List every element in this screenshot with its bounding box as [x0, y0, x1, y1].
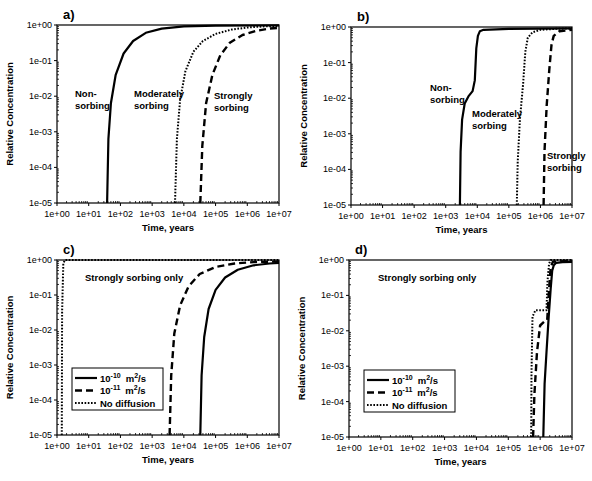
y-tick-label: 1e-05	[323, 200, 346, 210]
y-tick-label: 1e-04	[323, 164, 346, 174]
annotation-text: sorbing	[214, 102, 249, 113]
panel-label: b)	[357, 9, 369, 24]
annotation-text: sorbing	[430, 94, 465, 105]
chart-panel-a: 1e+001e+011e+021e+031e+041e+051e+061e+07…	[4, 7, 292, 233]
x-tick-label: 1e+00	[338, 211, 363, 221]
annotation-text: Non-	[75, 88, 97, 99]
x-tick-label: 1e+06	[528, 443, 553, 453]
y-tick-label: 1e-01	[29, 290, 52, 300]
x-axis-label: Time, years	[142, 454, 194, 465]
annotation-text: sorbing	[472, 120, 507, 131]
annotation-text: sorbing	[547, 162, 582, 173]
y-tick-label: 1e+00	[319, 255, 344, 265]
x-tick-label: 1e+01	[76, 441, 101, 451]
x-tick-label: 1e+06	[528, 211, 553, 221]
y-tick-label: 1e-01	[323, 58, 346, 68]
x-tick-label: 1e+04	[465, 211, 490, 221]
x-tick-label: 1e+03	[433, 211, 458, 221]
y-tick-label: 1e+00	[27, 20, 52, 30]
x-tick-label: 1e+07	[559, 211, 584, 221]
annotation-text: Strongly sorbing only	[378, 272, 477, 283]
x-tick-label: 1e+05	[496, 211, 521, 221]
annotation-text: sorbing	[75, 100, 110, 111]
x-tick-label: 1e+07	[559, 443, 584, 453]
y-tick-label: 1e-02	[29, 91, 52, 101]
y-tick-label: 1e-04	[29, 395, 52, 405]
x-tick-label: 1e+01	[368, 443, 393, 453]
y-tick-label: 1e-03	[29, 360, 52, 370]
x-tick-label: 1e+04	[171, 209, 196, 219]
y-tick-label: 1e+00	[321, 22, 346, 32]
figure: 1e+001e+011e+021e+031e+041e+051e+061e+07…	[0, 0, 592, 481]
x-tick-label: 1e+03	[140, 209, 165, 219]
annotation-text: Strongly sorbing only	[85, 272, 184, 283]
chart-panel-b: 1e+001e+011e+021e+031e+041e+051e+061e+07…	[298, 9, 586, 235]
x-tick-label: 1e+04	[464, 443, 489, 453]
y-tick-label: 1e-01	[29, 56, 52, 66]
y-tick-label: 1e-05	[29, 198, 52, 208]
x-tick-label: 1e+01	[370, 211, 395, 221]
y-axis-label: Relative Concentration	[296, 297, 307, 401]
legend: 10-10m2/s10-11m2/sNo diffusion	[72, 368, 163, 410]
y-tick-label: 1e-05	[321, 432, 344, 442]
annotation-text: Moderately	[472, 108, 523, 119]
annotation-text: Moderately	[134, 88, 185, 99]
x-tick-label: 1e+03	[140, 441, 165, 451]
x-tick-label: 1e+00	[336, 443, 361, 453]
y-tick-label: 1e-02	[323, 93, 346, 103]
x-tick-label: 1e+04	[171, 441, 196, 451]
x-tick-label: 1e+02	[402, 211, 427, 221]
plot-area	[351, 27, 572, 205]
y-tick-label: 1e-03	[323, 129, 346, 139]
x-tick-label: 1e+07	[266, 209, 291, 219]
y-tick-label: 1e-03	[321, 361, 344, 371]
x-axis-label: Time, years	[434, 456, 486, 467]
y-tick-label: 1e-02	[321, 326, 344, 336]
annotation-text: Strongly	[214, 90, 253, 101]
y-tick-label: 1e+00	[27, 255, 52, 265]
y-tick-label: 1e-01	[321, 290, 344, 300]
x-tick-label: 1e+05	[496, 443, 521, 453]
x-tick-label: 1e+05	[203, 441, 228, 451]
x-tick-label: 1e+02	[108, 441, 133, 451]
x-tick-label: 1e+02	[400, 443, 425, 453]
chart-panel-c: 1e+001e+011e+021e+031e+041e+051e+061e+07…	[4, 242, 292, 465]
y-tick-label: 1e-05	[29, 430, 52, 440]
x-tick-label: 1e+05	[203, 209, 228, 219]
x-tick-label: 1e+07	[266, 441, 291, 451]
annotation-text: sorbing	[134, 100, 169, 111]
x-tick-label: 1e+03	[432, 443, 457, 453]
y-tick-label: 1e-04	[29, 162, 52, 172]
x-tick-label: 1e+00	[44, 209, 69, 219]
y-tick-label: 1e-02	[29, 325, 52, 335]
y-axis-label: Relative Concentration	[4, 62, 15, 166]
annotation-text: Strongly	[547, 150, 586, 161]
panel-label: d)	[355, 242, 367, 257]
x-tick-label: 1e+01	[76, 209, 101, 219]
annotation-text: Non-	[430, 82, 452, 93]
x-axis-label: Time, years	[142, 222, 194, 233]
panel-label: c)	[63, 242, 75, 257]
x-tick-label: 1e+02	[108, 209, 133, 219]
y-tick-label: 1e-04	[321, 397, 344, 407]
y-tick-label: 1e-03	[29, 127, 52, 137]
x-tick-label: 1e+00	[44, 441, 69, 451]
plot-area	[57, 25, 279, 203]
legend-entry-label: No diffusion	[100, 398, 156, 409]
legend: 10-10m2/s10-11m2/sNo diffusion	[364, 370, 455, 412]
x-tick-label: 1e+06	[235, 441, 260, 451]
chart-panel-d: 1e+001e+011e+021e+031e+041e+051e+061e+07…	[296, 242, 585, 467]
legend-entry-label: No diffusion	[392, 400, 448, 411]
y-axis-label: Relative Concentration	[4, 296, 15, 400]
x-tick-label: 1e+06	[235, 209, 260, 219]
x-axis-label: Time, years	[435, 224, 487, 235]
y-axis-label: Relative Concentration	[298, 64, 309, 168]
panel-label: a)	[63, 7, 75, 22]
